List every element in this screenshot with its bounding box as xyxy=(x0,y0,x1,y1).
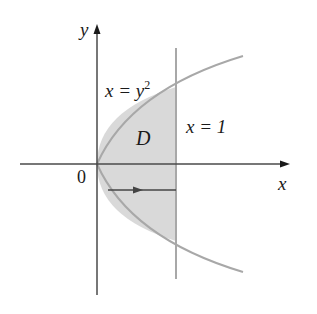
y-axis-arrow-icon xyxy=(94,24,101,34)
region-label: D xyxy=(135,127,151,149)
curve-label-exponent: 2 xyxy=(144,78,150,92)
x-axis-label: x xyxy=(277,173,287,194)
origin-label: 0 xyxy=(77,167,86,187)
line-label: x = 1 xyxy=(185,116,226,137)
curve-label: x = y2 xyxy=(104,78,150,101)
x-axis-arrow-icon xyxy=(280,161,290,168)
y-axis-label: y xyxy=(78,19,89,40)
region-diagram: y x 0 x = y2 x = 1 D xyxy=(0,0,317,314)
curve-label-text: x = y xyxy=(104,80,145,101)
